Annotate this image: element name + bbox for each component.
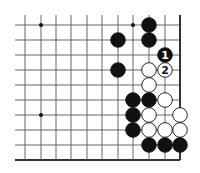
white-stone[interactable]	[158, 123, 173, 138]
white-stone[interactable]	[142, 63, 157, 78]
go-board: 12	[0, 0, 200, 173]
black-stone[interactable]	[158, 138, 173, 153]
black-stone[interactable]	[142, 18, 157, 33]
hoshi-point	[39, 113, 43, 117]
black-stone[interactable]	[126, 93, 141, 108]
black-stone[interactable]	[142, 33, 157, 48]
white-stone[interactable]	[173, 123, 188, 138]
white-stone[interactable]	[142, 123, 157, 138]
black-stone[interactable]	[173, 138, 188, 153]
move-number-label: 1	[161, 49, 169, 62]
black-stone[interactable]	[111, 33, 126, 48]
hoshi-point	[131, 23, 135, 27]
white-stone[interactable]	[142, 78, 157, 93]
black-stone[interactable]	[111, 63, 126, 78]
black-stone[interactable]	[126, 123, 141, 138]
black-stone[interactable]	[126, 108, 141, 123]
white-stone[interactable]	[158, 93, 173, 108]
white-stone[interactable]	[142, 108, 157, 123]
black-stone[interactable]	[142, 138, 157, 153]
black-stone[interactable]: 1	[158, 48, 173, 63]
white-stone[interactable]	[173, 108, 188, 123]
white-stone[interactable]: 2	[158, 63, 173, 78]
hoshi-point	[39, 23, 43, 27]
move-number-label: 2	[161, 64, 169, 77]
black-stone[interactable]	[142, 93, 157, 108]
